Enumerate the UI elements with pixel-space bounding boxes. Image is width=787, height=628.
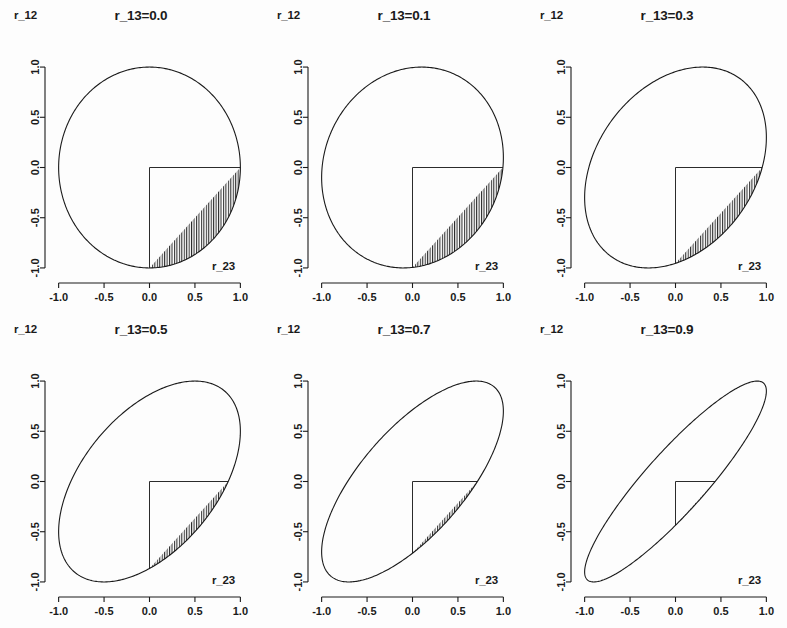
x-axis-label: r_23 <box>212 574 235 586</box>
y-tick-label: 1.0 <box>555 373 567 388</box>
x-tick-label: 0.0 <box>142 291 157 303</box>
y-tick-label: 1.0 <box>29 373 41 388</box>
y-tick-label: 0.5 <box>555 110 567 125</box>
y-tick-label: 0.5 <box>292 424 304 439</box>
x-tick-label: -0.5 <box>621 291 640 303</box>
x-tick-label: 0.5 <box>187 291 202 303</box>
y-tick-label: 0.0 <box>292 160 304 175</box>
y-tick-label: 0.0 <box>29 160 41 175</box>
x-tick-label: -1.0 <box>49 291 68 303</box>
x-tick-label: 0.5 <box>713 605 728 617</box>
hatched-region <box>413 168 503 268</box>
x-tick-label: 0.0 <box>668 291 683 303</box>
x-tick-label: -1.0 <box>575 291 594 303</box>
hatched-region <box>150 168 241 268</box>
y-tick-label: 1.0 <box>292 373 304 388</box>
plot-panel-3: r_12r_13=0.5-1.0-0.50.00.51.01.00.50.0-0… <box>0 314 262 628</box>
x-axis-label: r_23 <box>212 260 235 272</box>
x-tick-label: 1.0 <box>759 605 774 617</box>
hatched-region <box>413 482 478 554</box>
y-tick-label: 0.5 <box>29 424 41 439</box>
x-axis-label: r_23 <box>475 574 498 586</box>
x-axis-label: r_23 <box>738 574 761 586</box>
x-axis-label: r_23 <box>738 260 761 272</box>
y-tick-label: -1.0 <box>555 572 567 591</box>
y-tick-label: -1.0 <box>292 572 304 591</box>
y-tick-label: 0.5 <box>29 110 41 125</box>
y-tick-label: 0.0 <box>292 474 304 489</box>
x-tick-label: -0.5 <box>95 605 114 617</box>
y-tick-label: -1.0 <box>29 572 41 591</box>
y-tick-label: -1.0 <box>555 258 567 277</box>
x-tick-label: 0.5 <box>450 291 465 303</box>
y-tick-label: -0.5 <box>555 208 567 227</box>
figure-panel-grid: r_12r_13=0.0-1.0-0.50.00.51.01.00.50.0-0… <box>0 0 787 628</box>
y-tick-label: 1.0 <box>292 59 304 74</box>
x-tick-label: 0.0 <box>668 605 683 617</box>
y-tick-label: -0.5 <box>555 522 567 541</box>
x-tick-label: -0.5 <box>358 605 377 617</box>
y-tick-label: -0.5 <box>292 208 304 227</box>
y-tick-label: -0.5 <box>29 208 41 227</box>
hatched-region <box>150 482 229 569</box>
x-axis-label: r_23 <box>475 260 498 272</box>
plot-panel-4: r_12r_13=0.7-1.0-0.50.00.51.01.00.50.0-0… <box>263 314 525 628</box>
x-tick-label: 1.0 <box>496 291 511 303</box>
x-tick-label: -0.5 <box>621 605 640 617</box>
plot-panel-5: r_12r_13=0.9-1.0-0.50.00.51.01.00.50.0-0… <box>526 314 787 628</box>
x-tick-label: 1.0 <box>233 291 248 303</box>
y-tick-label: -0.5 <box>292 522 304 541</box>
x-tick-label: 0.0 <box>142 605 157 617</box>
y-tick-label: 0.0 <box>29 474 41 489</box>
plot-panel-1: r_12r_13=0.1-1.0-0.50.00.51.01.00.50.0-0… <box>263 0 525 314</box>
y-tick-label: 0.0 <box>555 160 567 175</box>
x-tick-label: -0.5 <box>358 291 377 303</box>
hatched-region <box>676 168 763 264</box>
x-tick-label: 0.5 <box>713 291 728 303</box>
x-tick-label: -0.5 <box>95 291 114 303</box>
plot-panel-0: r_12r_13=0.0-1.0-0.50.00.51.01.00.50.0-0… <box>0 0 262 314</box>
x-tick-label: -1.0 <box>49 605 68 617</box>
x-tick-label: -1.0 <box>312 291 331 303</box>
y-tick-label: -1.0 <box>292 258 304 277</box>
x-tick-label: -1.0 <box>312 605 331 617</box>
y-tick-label: 1.0 <box>555 59 567 74</box>
y-tick-label: -0.5 <box>29 522 41 541</box>
x-tick-label: 1.0 <box>759 291 774 303</box>
y-tick-label: 0.5 <box>292 110 304 125</box>
x-tick-label: 0.0 <box>405 605 420 617</box>
plot-panel-2: r_12r_13=0.3-1.0-0.50.00.51.01.00.50.0-0… <box>526 0 787 314</box>
x-tick-label: -1.0 <box>575 605 594 617</box>
x-tick-label: 1.0 <box>496 605 511 617</box>
x-tick-label: 0.0 <box>405 291 420 303</box>
y-tick-label: -1.0 <box>29 258 41 277</box>
y-tick-label: 0.5 <box>555 424 567 439</box>
x-tick-label: 1.0 <box>233 605 248 617</box>
x-tick-label: 0.5 <box>187 605 202 617</box>
y-tick-label: 1.0 <box>29 59 41 74</box>
y-tick-label: 0.0 <box>555 474 567 489</box>
x-tick-label: 0.5 <box>450 605 465 617</box>
